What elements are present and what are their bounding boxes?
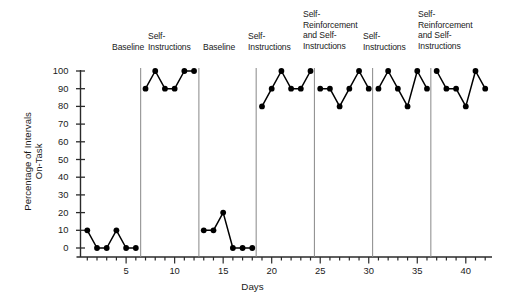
data-point	[84, 227, 90, 233]
y-tick-label: 10	[43, 225, 69, 234]
data-line-phase-1	[87, 230, 136, 248]
data-point	[346, 86, 352, 92]
y-tick-label: 60	[43, 137, 69, 146]
data-point	[308, 68, 314, 74]
data-point	[298, 86, 304, 92]
y-tick-label: 100	[43, 66, 69, 75]
data-point	[104, 245, 110, 251]
y-tick-label: 50	[43, 155, 69, 164]
data-line-phase-6	[378, 71, 427, 106]
phase-label-4: Self- Instructions	[248, 31, 291, 52]
data-point	[385, 68, 391, 74]
data-point	[211, 227, 217, 233]
phase-label-2: Self- Instructions	[148, 31, 191, 52]
figure-container: Percentage of Intervals On-Task Days Bas…	[0, 0, 505, 308]
x-tick-label: 10	[163, 266, 187, 275]
data-point	[230, 245, 236, 251]
phase-label-1: Baseline	[112, 42, 144, 53]
data-point	[181, 68, 187, 74]
y-tick-label: 40	[43, 172, 69, 181]
phase-label-5: Self- Reinforcement and Self- Instructio…	[303, 9, 358, 51]
data-point	[376, 86, 382, 92]
y-tick-label: 0	[43, 243, 69, 252]
phase-label-3: Baseline	[203, 42, 235, 53]
data-point	[162, 86, 168, 92]
data-point	[143, 86, 149, 92]
data-point	[249, 245, 255, 251]
data-point	[463, 104, 469, 110]
data-point	[356, 68, 362, 74]
data-point	[434, 68, 440, 74]
x-tick-label: 30	[357, 266, 381, 275]
x-tick-label: 40	[454, 266, 478, 275]
data-point	[366, 86, 372, 92]
y-tick-label: 30	[43, 190, 69, 199]
data-point	[405, 104, 411, 110]
y-tick-label: 20	[43, 208, 69, 217]
data-point	[473, 68, 479, 74]
data-point	[172, 86, 178, 92]
x-axis-label: Days	[0, 281, 505, 292]
data-point	[240, 245, 246, 251]
data-point	[395, 86, 401, 92]
data-point	[259, 104, 265, 110]
data-point	[152, 68, 158, 74]
phase-label-6: Self- Instructions	[363, 31, 406, 52]
data-point	[337, 104, 343, 110]
data-line-phase-2	[146, 71, 195, 89]
x-tick-label: 25	[308, 266, 332, 275]
data-point	[317, 86, 323, 92]
data-point	[279, 68, 285, 74]
y-tick-label: 70	[43, 119, 69, 128]
x-tick-label: 5	[114, 266, 138, 275]
data-point	[327, 86, 333, 92]
data-point	[288, 86, 294, 92]
data-point	[123, 245, 129, 251]
data-point	[201, 227, 207, 233]
data-point	[114, 227, 120, 233]
y-axis-label: Percentage of Intervals On-Task	[22, 81, 45, 241]
data-point	[220, 210, 226, 216]
y-tick-label: 90	[43, 84, 69, 93]
x-tick-label: 20	[260, 266, 284, 275]
data-point	[453, 86, 459, 92]
data-point	[133, 245, 139, 251]
data-point	[424, 86, 430, 92]
data-point	[269, 86, 275, 92]
x-tick-label: 15	[211, 266, 235, 275]
x-tick-label: 35	[405, 266, 429, 275]
data-point	[414, 68, 420, 74]
data-point	[191, 68, 197, 74]
data-point	[94, 245, 100, 251]
data-point	[443, 86, 449, 92]
data-point	[482, 86, 488, 92]
phase-label-7: Self- Reinforcement and Self- Instructio…	[418, 9, 473, 51]
y-tick-label: 80	[43, 101, 69, 110]
